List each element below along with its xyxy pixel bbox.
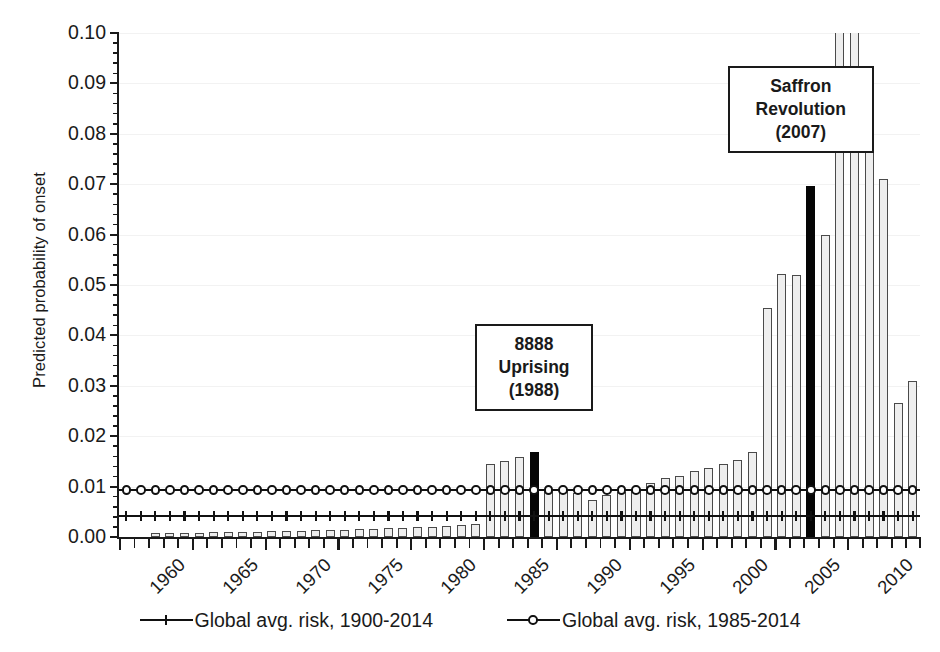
y-tick-minor [113, 224, 119, 226]
plus-marker-icon [868, 511, 870, 521]
bar [398, 528, 407, 537]
plus-marker-icon [693, 511, 695, 521]
bar [238, 532, 247, 537]
plus-marker-icon [679, 511, 681, 521]
annotation-line-3: (1988) [487, 379, 581, 402]
bar [224, 532, 233, 537]
circle-marker-icon [282, 485, 292, 495]
x-tick [381, 537, 383, 548]
x-tick [454, 537, 456, 548]
plus-marker-icon [315, 511, 317, 521]
chart-figure: Predicted probability of onset 0.000.010… [0, 0, 940, 652]
plus-marker-icon [795, 511, 797, 521]
annotation-line-2: Uprising [487, 356, 581, 379]
plus-marker-icon [387, 511, 389, 521]
bar [442, 526, 451, 537]
y-tick-label: 0.06 [0, 225, 106, 245]
circle-marker-icon [165, 485, 175, 495]
circle-marker-icon [690, 485, 700, 495]
plus-marker-icon [329, 511, 331, 521]
x-tick [570, 537, 572, 548]
y-tick [110, 284, 119, 286]
circle-marker-icon [835, 485, 845, 495]
circle-marker-icon [398, 485, 408, 495]
plus-marker-icon [446, 511, 448, 521]
plus-marker-icon [562, 511, 564, 521]
plus-marker-icon [140, 612, 193, 628]
bar [486, 464, 495, 537]
x-tick [512, 537, 514, 548]
annotation-line-2: Revolution [740, 98, 862, 121]
y-tick [110, 334, 119, 336]
circle-marker-icon [209, 485, 219, 495]
y-tick-label: 0.01 [0, 477, 106, 497]
y-tick-minor [113, 73, 119, 75]
plus-marker-icon [649, 511, 651, 521]
plus-marker-icon [548, 511, 550, 521]
gridline [119, 33, 920, 34]
x-tick [876, 537, 878, 548]
circle-marker-icon [471, 485, 481, 495]
y-tick [110, 536, 119, 538]
y-tick [110, 32, 119, 34]
y-tick-label: 0.02 [0, 426, 106, 446]
y-tick-minor [113, 254, 119, 256]
x-tick [760, 537, 762, 548]
bar [763, 308, 772, 537]
circle-marker-icon [762, 485, 772, 495]
x-tick [308, 537, 310, 548]
y-tick-minor [113, 204, 119, 206]
y-tick [110, 183, 119, 185]
x-tick-major [483, 537, 485, 550]
circle-marker-icon [180, 485, 190, 495]
plus-marker-icon [256, 511, 258, 521]
circle-marker-icon [267, 485, 277, 495]
circle-marker-icon [325, 485, 335, 495]
y-tick-minor [113, 365, 119, 367]
plus-marker-icon [154, 511, 156, 521]
x-tick [731, 537, 733, 548]
y-tick-minor [113, 62, 119, 64]
x-tick [600, 537, 602, 548]
y-tick-minor [113, 526, 119, 528]
circle-marker-icon [821, 485, 831, 495]
y-tick-label: 0.00 [0, 527, 106, 547]
x-tick-major [702, 537, 704, 550]
y-tick-minor [113, 93, 119, 95]
circle-marker-icon [879, 485, 889, 495]
y-tick-label: 0.03 [0, 376, 106, 396]
plus-marker-icon [183, 511, 185, 521]
bar [865, 129, 874, 537]
x-tick [221, 537, 223, 548]
y-tick-minor [113, 123, 119, 125]
annotation-8888-uprising: 8888 Uprising (1988) [475, 324, 593, 411]
x-tick [905, 537, 907, 548]
circle-marker-icon [850, 485, 860, 495]
y-tick-minor [113, 143, 119, 145]
x-tick-label: 1965 [218, 554, 263, 599]
x-tick [643, 537, 645, 548]
bar [719, 464, 728, 537]
plus-marker-icon [300, 511, 302, 521]
plus-marker-icon [766, 511, 768, 521]
bar [340, 530, 349, 537]
plus-marker-icon [591, 511, 593, 521]
plus-marker-icon [140, 511, 142, 521]
y-tick-label: 0.10 [0, 23, 106, 43]
plus-marker-icon [460, 511, 462, 521]
circle-marker-icon [791, 485, 801, 495]
x-tick-label: 2005 [800, 554, 845, 599]
x-tick [396, 537, 398, 548]
circle-marker-icon [340, 485, 350, 495]
bar [151, 533, 160, 537]
x-tick [745, 537, 747, 548]
circle-marker-icon [573, 485, 583, 495]
circle-marker-icon [617, 485, 627, 495]
x-tick [134, 537, 136, 548]
x-tick-label: 1990 [582, 554, 627, 599]
x-tick-major [119, 537, 121, 550]
circle-marker-icon [296, 485, 306, 495]
x-tick [614, 537, 616, 548]
plus-marker-icon [912, 511, 914, 521]
y-tick-minor [113, 476, 119, 478]
